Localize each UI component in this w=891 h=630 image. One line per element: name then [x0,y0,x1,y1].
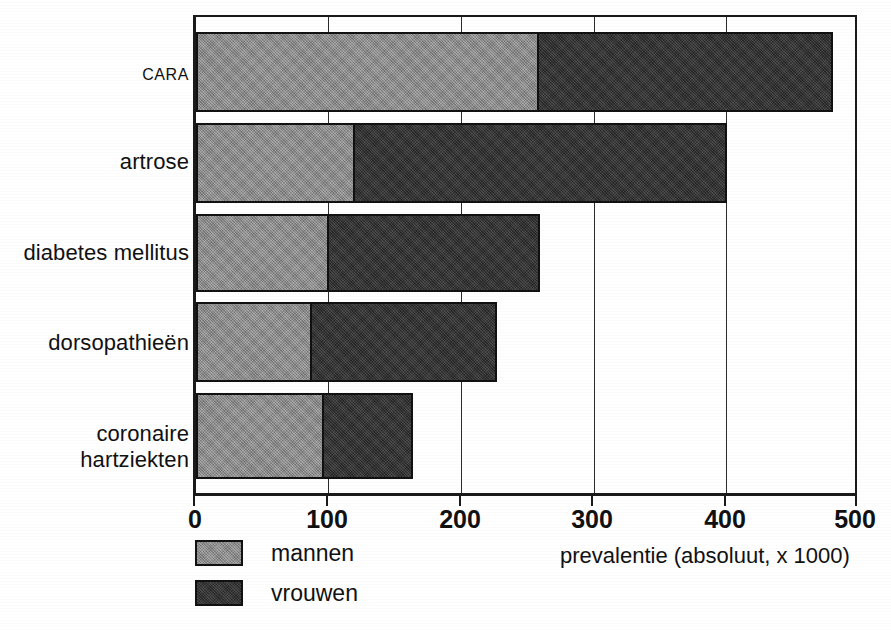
legend-swatch-vrouwen [195,580,243,606]
bar-segment-vrouwen [324,393,413,479]
bar-segment-vrouwen [539,32,833,112]
plot-area [193,15,857,496]
bar-segment-vrouwen [329,214,540,292]
bar-segment-mannen [196,32,539,112]
tick-label-100: 100 [306,505,348,534]
x-axis-title: prevalentie (absoluut, x 1000) [560,543,850,569]
legend-label-mannen: mannen [271,540,354,567]
bar-chart-figure: CARA artrose diabetes mellitus dorsopath… [0,0,891,630]
legend-swatch-mannen [195,540,243,566]
category-label-coronaire-hartziekten: coronaire hartziekten [80,421,189,473]
bar-segment-mannen [196,123,355,203]
tick-label-300: 300 [571,505,613,534]
legend-item-mannen: mannen [195,533,358,573]
legend-label-vrouwen: vrouwen [271,580,358,607]
tick-label-400: 400 [704,505,746,534]
tick-label-200: 200 [439,505,481,534]
bar-segment-vrouwen [355,123,727,203]
category-label-diabetes-mellitus: diabetes mellitus [23,240,189,266]
tick-label-0: 0 [188,505,202,534]
bar-segment-vrouwen [312,302,497,382]
tick-label-500: 500 [834,505,876,534]
category-label-dorsopathieen: dorsopathieën [48,330,189,356]
legend-item-vrouwen: vrouwen [195,573,358,613]
bar-segment-mannen [196,302,312,382]
bar-segment-mannen [196,214,329,292]
bar-segment-mannen [196,393,324,479]
category-label-cara: CARA [142,62,189,88]
legend: mannen vrouwen [195,533,358,613]
category-label-artrose: artrose [120,149,189,175]
